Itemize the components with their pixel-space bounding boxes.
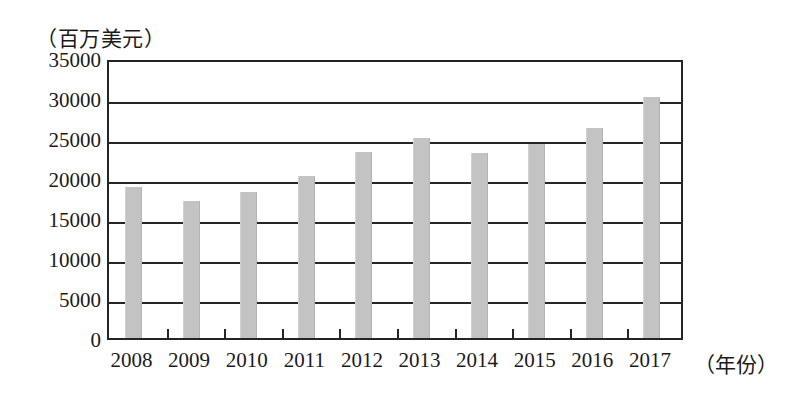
x-axis-tick-label-2015: 2015 [514, 348, 556, 373]
x-axis-tick-label-2014: 2014 [456, 348, 498, 373]
bar-2014 [471, 153, 488, 338]
y-axis-tick-label: 25000 [49, 128, 102, 153]
x-axis-tick-label-2012: 2012 [341, 348, 383, 373]
x-axis-tick-label-2016: 2016 [571, 348, 613, 373]
y-axis-tick-label-group: 05000100001500020000250003000035000 [16, 0, 101, 399]
x-axis-tick-label-2008: 2008 [111, 348, 153, 373]
bar-2016 [586, 128, 603, 338]
x-axis-tick-label-group: 2008200920102011201220132014201520162017 [107, 348, 683, 378]
plot-area [107, 60, 683, 340]
x-axis-tick-label-2017: 2017 [629, 348, 671, 373]
bar-2017 [643, 97, 660, 338]
bar-chart-figure: （百万美元） 050001000015000200002500030000350… [0, 0, 796, 399]
bar-2010 [240, 192, 257, 338]
bar-2008 [125, 187, 142, 338]
x-axis-tick-label-2011: 2011 [284, 348, 325, 373]
x-axis-caption-label: （年份） [694, 348, 778, 378]
x-axis-tick-label-2013: 2013 [399, 348, 441, 373]
y-axis-tick-label: 35000 [49, 48, 102, 73]
y-axis-tick-label: 0 [91, 328, 102, 353]
y-axis-tick-label: 10000 [49, 248, 102, 273]
bar-2009 [183, 201, 200, 338]
bar-2015 [528, 144, 545, 338]
x-axis-tick-label-2009: 2009 [168, 348, 210, 373]
y-axis-tick-label: 5000 [59, 288, 101, 313]
bar-2013 [413, 138, 430, 338]
y-axis-tick-label: 20000 [49, 168, 102, 193]
bar-2012 [355, 152, 372, 338]
x-axis-tick-label-2010: 2010 [226, 348, 268, 373]
y-axis-tick-label: 15000 [49, 208, 102, 233]
y-axis-tick-label: 30000 [49, 88, 102, 113]
bar-2011 [298, 176, 315, 338]
bar-series [109, 62, 681, 338]
